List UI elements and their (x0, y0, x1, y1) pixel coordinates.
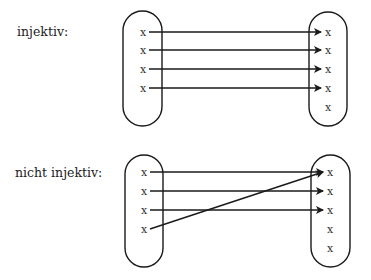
injective-diagram: xxxxxxxxx (123, 11, 347, 126)
non-injective-diagram: xxxxxxxxx (125, 155, 350, 267)
codomain-element: x (325, 82, 332, 95)
codomain-element: x (325, 44, 332, 57)
domain-element: x (140, 63, 147, 76)
domain-element: x (140, 44, 147, 57)
mapping-arrow (150, 172, 323, 229)
codomain-element: x (327, 223, 334, 236)
codomain-element: x (327, 166, 334, 179)
domain-element: x (140, 26, 147, 39)
codomain-element: x (325, 101, 332, 114)
domain-element: x (141, 204, 148, 217)
codomain-element: x (327, 242, 334, 255)
codomain-element: x (325, 26, 332, 39)
codomain-element: x (325, 63, 332, 76)
domain-element: x (140, 82, 147, 95)
codomain-element: x (327, 204, 334, 217)
domain-element: x (141, 166, 148, 179)
domain-element: x (141, 185, 148, 198)
mapping-diagrams: xxxxxxxxx xxxxxxxxx (0, 0, 371, 280)
domain-element: x (141, 223, 148, 236)
codomain-element: x (327, 185, 334, 198)
